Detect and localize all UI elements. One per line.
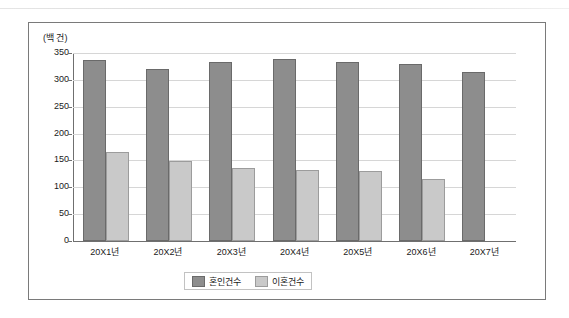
bar-group: [209, 53, 253, 241]
x-axis-tick-label: 20X1년: [73, 245, 136, 258]
scan-artifact-line: [0, 8, 569, 9]
bar-혼인건수: [209, 62, 232, 241]
x-axis-tick-label: 20X2년: [136, 245, 199, 258]
y-axis-tick: [68, 53, 72, 54]
y-axis-tick-label: 150: [54, 154, 69, 164]
chart-legend: 혼인건수이혼건수: [184, 272, 312, 290]
x-axis-tick-label: 20X5년: [326, 245, 389, 258]
y-axis-unit-label: (백 건): [43, 31, 68, 44]
bar-group: [273, 53, 317, 241]
chart-screenshot: (백 건) 050100150200250300350 20X1년20X2년20…: [0, 0, 569, 318]
bar-이혼건수: [169, 161, 192, 241]
y-axis-tick: [68, 80, 72, 81]
legend-label: 혼인건수: [209, 275, 241, 288]
bar-group: [336, 53, 380, 241]
bar-혼인건수: [399, 64, 422, 241]
y-axis-tick: [68, 107, 72, 108]
bar-group: [83, 53, 127, 241]
y-axis-tick-label: 50: [59, 208, 69, 218]
bar-혼인건수: [146, 69, 169, 241]
legend-swatch: [255, 276, 268, 287]
bar-이혼건수: [232, 168, 255, 241]
y-axis-tick-label: 350: [54, 47, 69, 57]
bar-혼인건수: [336, 62, 359, 241]
y-axis-tick-label: 300: [54, 74, 69, 84]
legend-label: 이혼건수: [272, 275, 304, 288]
x-axis-tick-label: 20X6년: [389, 245, 452, 258]
bar-혼인건수: [83, 60, 106, 241]
y-axis-tick: [68, 187, 72, 188]
bar-이혼건수: [106, 152, 129, 241]
x-axis-tick-labels: 20X1년20X2년20X3년20X4년20X5년20X6년20X7년: [73, 245, 516, 259]
legend-item: 이혼건수: [255, 275, 304, 288]
y-axis-tick: [68, 160, 72, 161]
bar-이혼건수: [359, 171, 382, 241]
x-axis-tick-label: 20X3년: [200, 245, 263, 258]
y-axis-tick-label: 100: [54, 181, 69, 191]
y-axis-tick-label: 250: [54, 101, 69, 111]
bar-group: [462, 53, 506, 241]
y-axis-tick-label: 0: [64, 235, 69, 245]
bar-group: [146, 53, 190, 241]
bar-이혼건수: [422, 179, 445, 241]
chart-frame: (백 건) 050100150200250300350 20X1년20X2년20…: [28, 22, 546, 300]
x-axis-tick-label: 20X7년: [453, 245, 516, 258]
bar-groups: [73, 53, 516, 241]
y-axis-tick: [68, 134, 72, 135]
bar-이혼건수: [296, 170, 319, 241]
bar-혼인건수: [462, 72, 485, 241]
x-axis-tick-label: 20X4년: [263, 245, 326, 258]
x-axis-line: [73, 241, 516, 242]
legend-swatch: [192, 276, 205, 287]
y-axis-tick: [68, 241, 72, 242]
y-axis-tick-labels: 050100150200250300350: [43, 53, 69, 241]
bar-group: [399, 53, 443, 241]
y-axis-tick: [68, 214, 72, 215]
y-axis-tick-label: 200: [54, 128, 69, 138]
bar-혼인건수: [273, 59, 296, 241]
legend-item: 혼인건수: [192, 275, 241, 288]
